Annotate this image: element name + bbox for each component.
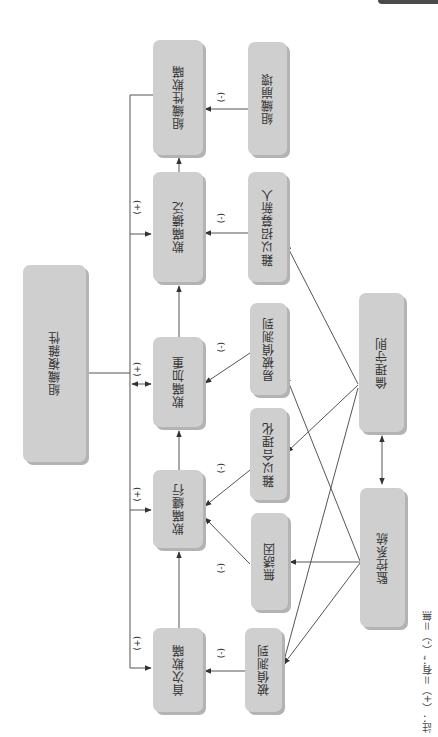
- sign-minus: (-): [216, 563, 226, 573]
- node-hard-to-rationalize: 難以合理化: [250, 408, 287, 500]
- node-label: 欺瞞纏行: [170, 483, 187, 535]
- node-label: 被偵測到: [255, 644, 272, 696]
- node-label: 無誘因: [261, 542, 278, 581]
- node-deception-spread: 欺瞞擴泛: [153, 172, 203, 282]
- node-detected: 被偵測到: [245, 628, 282, 712]
- node-label: 易被偵測到: [260, 317, 277, 382]
- node-easily-detected: 易被偵測到: [250, 303, 287, 395]
- node-label: 難以合理化: [260, 422, 277, 487]
- node-org-complexity: 組織複雜性: [23, 265, 86, 462]
- node-label: 組織崩壞: [259, 73, 276, 125]
- node-label: 組織性欺瞞: [170, 65, 187, 130]
- node-label: 欺瞞加重: [170, 356, 187, 408]
- sign-plus: (+): [132, 200, 142, 215]
- node-label: 倫理守則: [373, 337, 390, 389]
- node-ethics-code: 倫理守則: [359, 293, 404, 432]
- sign-minus: (-): [216, 92, 226, 102]
- node-label: 組織複雜性: [46, 331, 63, 396]
- node-org-collapse: 組織崩壞: [248, 42, 287, 155]
- node-label: 首次欺瞞: [170, 644, 187, 696]
- node-no-incentive: 無誘因: [251, 513, 288, 610]
- node-label: 難以招募新人: [259, 188, 276, 266]
- node-deception-escalate: 欺瞞加重: [153, 337, 203, 427]
- legend-note: 註：（+）＝有；（-）＝無: [420, 568, 435, 733]
- node-deception-continue: 欺瞞纏行: [153, 470, 203, 548]
- sign-plus: (+): [132, 362, 142, 377]
- node-monitoring-system: 監控系統: [360, 488, 405, 627]
- node-hard-to-recruit: 難以招募新人: [248, 172, 287, 282]
- sign-plus: (+): [132, 487, 142, 502]
- sign-minus: (-): [216, 213, 226, 223]
- sign-minus: (-): [216, 463, 226, 473]
- node-first-deception: 首次欺瞞: [153, 628, 203, 712]
- node-label: 欺瞞擴泛: [170, 201, 187, 253]
- node-label: 監控系統: [374, 532, 391, 584]
- sign-plus: (+): [132, 636, 142, 651]
- sign-minus: (-): [216, 648, 226, 658]
- node-org-deception: 組織性欺瞞: [153, 40, 203, 155]
- sign-minus: (-): [216, 342, 226, 352]
